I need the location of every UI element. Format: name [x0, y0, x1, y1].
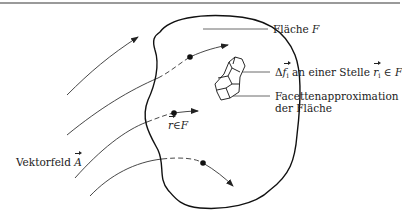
field-line-4: [90, 159, 162, 196]
field-line-1: [67, 37, 138, 95]
point-1: [187, 54, 193, 60]
point-3: [200, 160, 206, 166]
facet-line-2: der Fläche: [275, 102, 399, 114]
label-surface: Fläche F: [273, 23, 319, 35]
field-line-2: [67, 78, 158, 135]
A-symbol: A: [74, 156, 82, 168]
label-point: r∈F: [168, 119, 188, 131]
label-element: Δfi an einer Stelle ri ∈ F: [275, 66, 402, 82]
r-symbol: r: [373, 66, 378, 78]
label-facet: Facettenapproximation der Fläche: [275, 90, 399, 114]
vector-r: r: [168, 119, 173, 131]
surface-symbol: F: [312, 23, 319, 35]
delta-symbol: Δ: [275, 66, 283, 78]
field-line-2-dashed: [158, 57, 190, 78]
field-line-4-tip: [203, 163, 233, 186]
surface-text: Fläche: [273, 23, 309, 35]
vector-f: f: [283, 66, 287, 78]
field-line-3: [75, 122, 147, 178]
field-line-4-dashed: [162, 158, 203, 163]
element-text: an einer Stelle: [289, 66, 374, 78]
element-of-symbol: ∈: [381, 66, 395, 78]
label-field: Vektorfeld A: [16, 156, 82, 168]
element-of-symbol: ∈: [173, 119, 181, 131]
facet-element: [215, 57, 245, 100]
vector-A: A: [74, 156, 82, 168]
field-text: Vektorfeld: [16, 156, 74, 168]
r-symbol: r: [168, 119, 173, 131]
vector-r-i: r: [373, 66, 378, 78]
facet-line-1: Facettenapproximation: [275, 90, 399, 102]
F-symbol: F: [395, 66, 402, 78]
field-line-2-tip: [190, 45, 228, 57]
f-symbol: f: [283, 66, 287, 78]
field-line-3-tip: [174, 111, 198, 113]
F-symbol: F: [181, 119, 188, 131]
